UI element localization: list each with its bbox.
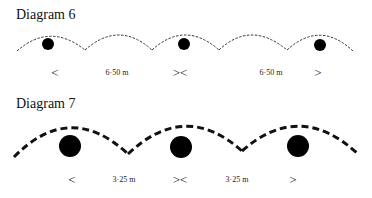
diagram-7-marker-start: < (68, 173, 75, 186)
arc (85, 35, 152, 50)
diagrams-canvas (0, 0, 372, 198)
tree-dot (170, 136, 192, 158)
diagram-7-distance-2: 3·25 m (226, 175, 249, 184)
tree-dot (42, 38, 54, 50)
diagram-6-marker-end: > (314, 66, 321, 79)
tree-dot (287, 135, 309, 157)
tree-dot (314, 39, 326, 51)
diagram-6-marker-mid: >< (173, 66, 188, 79)
diagram-6-marker-start: < (51, 66, 58, 79)
diagram-7-dots (59, 135, 309, 158)
diagram-7-marker-end: > (289, 173, 296, 186)
tree-dot (178, 38, 190, 50)
diagram-7-distance-1: 3·25 m (113, 175, 136, 184)
diagram-7-marker-mid: >< (173, 173, 188, 186)
diagram-6-distance-2: 6·50 m (260, 68, 283, 77)
diagram-6-distance-1: 6·50 m (106, 68, 129, 77)
arc (219, 35, 287, 50)
tree-dot (59, 135, 81, 157)
